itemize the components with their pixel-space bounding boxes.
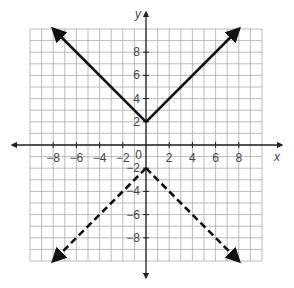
- svg-text:−8: −8: [126, 231, 140, 245]
- svg-text:4: 4: [133, 92, 140, 106]
- svg-text:6: 6: [212, 151, 219, 165]
- svg-text:−6: −6: [126, 208, 140, 222]
- svg-text:y: y: [134, 7, 142, 21]
- svg-text:8: 8: [235, 151, 242, 165]
- svg-text:2: 2: [166, 151, 173, 165]
- svg-text:−8: −8: [46, 151, 60, 165]
- svg-text:−4: −4: [93, 151, 107, 165]
- svg-text:0: 0: [135, 148, 142, 162]
- svg-text:x: x: [273, 150, 281, 164]
- svg-text:4: 4: [189, 151, 196, 165]
- coordinate-plane: −8−6−4−224688642−2−4−6−80xy: [0, 0, 294, 288]
- svg-text:6: 6: [133, 68, 140, 82]
- svg-text:−2: −2: [126, 161, 140, 175]
- tick-labels: −8−6−4−224688642−2−4−6−80xy: [46, 7, 281, 245]
- svg-text:−6: −6: [70, 151, 84, 165]
- svg-text:8: 8: [133, 45, 140, 59]
